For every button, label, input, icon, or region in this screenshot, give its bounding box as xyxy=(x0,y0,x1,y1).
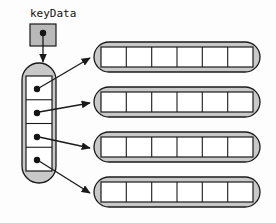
pointer-array-diagram: keyData xyxy=(0,0,276,223)
diagram-canvas: keyData xyxy=(0,0,276,223)
data-array-0 xyxy=(94,42,260,72)
page-title: keyData xyxy=(30,7,76,20)
pointer-cell-dot-icon xyxy=(34,157,40,163)
data-array-2 xyxy=(94,132,260,162)
pointer-cell-dot-icon xyxy=(34,86,40,92)
data-array-1 xyxy=(94,87,260,117)
pointer-dot-icon xyxy=(40,30,46,36)
data-array-3 xyxy=(94,177,260,207)
pointer-cell-dot-icon xyxy=(34,110,40,116)
